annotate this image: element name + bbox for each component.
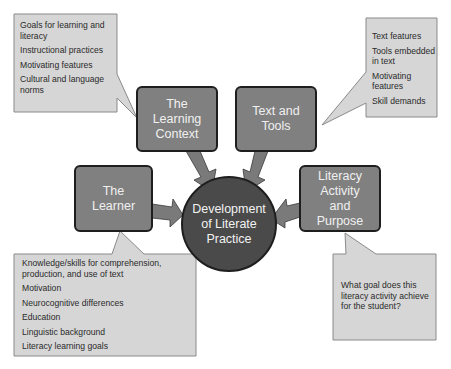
label-text-and-tools: Text and Tools <box>238 89 314 149</box>
callout-item: Skill demands <box>372 96 436 107</box>
callout-item: Cultural and language norms <box>20 74 114 95</box>
callout-item: Motivating features <box>372 71 436 92</box>
callout-item: Linguistic background <box>22 327 194 338</box>
callout-literacy-activity-text: What goal does this literacy activity ac… <box>341 280 434 316</box>
label-center: Development of Literate Practice <box>186 188 272 260</box>
callout-item: Neurocognitive differences <box>22 298 194 309</box>
label-learner: The Learner <box>77 168 150 229</box>
callout-item: Tools embedded in text <box>372 46 436 67</box>
label-literacy-activity: Literacy Activity and Purpose <box>302 168 378 229</box>
arrow-learner <box>152 199 183 227</box>
callout-item: Motivation <box>22 283 194 294</box>
callout-learning-context-text: Goals for learning and literacy Instruct… <box>20 20 114 99</box>
callout-learner-text: Knowledge/skills for comprehension, prod… <box>22 258 194 356</box>
callout-text-and-tools-text: Text features Tools embedded in text Mot… <box>372 31 436 110</box>
callout-item: Goals for learning and literacy <box>20 20 114 41</box>
label-learning-context: The Learning Context <box>139 89 215 149</box>
callout-item: Literacy learning goals <box>22 341 194 352</box>
callout-item: Text features <box>372 31 436 42</box>
callout-item: What goal does this literacy activity ac… <box>341 280 434 312</box>
callout-item: Motivating features <box>20 60 114 71</box>
callout-item: Knowledge/skills for comprehension, prod… <box>22 258 194 279</box>
callout-item: Education <box>22 312 194 323</box>
callout-item: Instructional practices <box>20 45 114 56</box>
